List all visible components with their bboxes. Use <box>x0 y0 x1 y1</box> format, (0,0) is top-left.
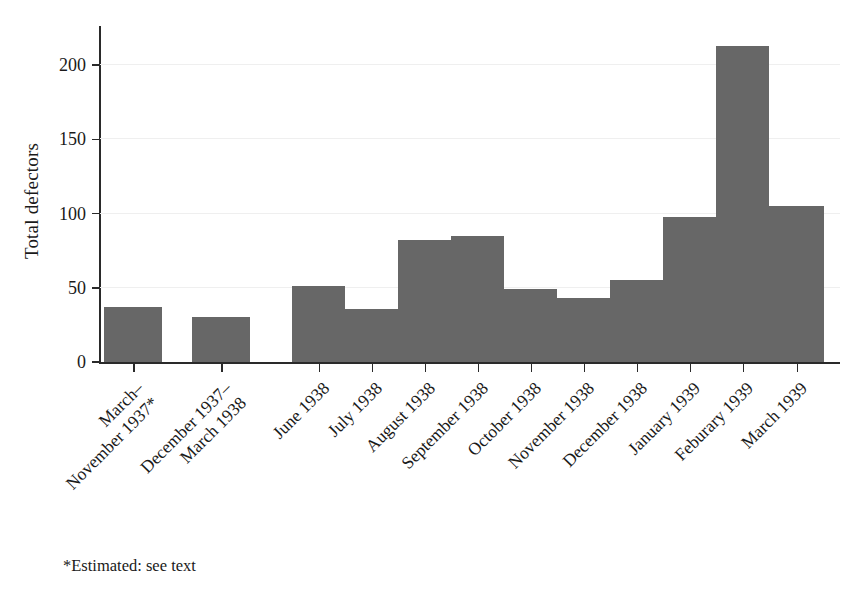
y-tick-label: 150 <box>40 130 86 148</box>
bar <box>557 298 610 362</box>
x-tick-mark <box>319 363 321 372</box>
bar <box>292 286 345 362</box>
x-axis-spine <box>99 362 840 364</box>
x-tick-mark <box>637 363 639 372</box>
x-tick-mark <box>221 363 223 372</box>
bar <box>610 280 663 362</box>
bar <box>716 46 769 362</box>
y-tick-mark <box>92 139 100 141</box>
y-tick-label: 100 <box>40 205 86 223</box>
footnote-text: *Estimated: see text <box>63 556 196 576</box>
x-tick-mark <box>797 363 799 372</box>
x-tick-mark <box>531 363 533 372</box>
bar <box>451 236 504 362</box>
x-tick-mark <box>743 363 745 372</box>
bar <box>192 317 250 362</box>
x-tick-mark <box>133 363 135 372</box>
x-tick-mark <box>584 363 586 372</box>
y-tick-label: 50 <box>40 279 86 297</box>
y-tick-mark <box>92 64 100 66</box>
y-tick-mark <box>92 213 100 215</box>
plot-area <box>100 28 840 362</box>
bar <box>663 217 716 362</box>
bar <box>398 240 451 362</box>
x-tick-mark <box>478 363 480 372</box>
bar <box>504 289 557 362</box>
x-tick-mark <box>425 363 427 372</box>
bar <box>345 309 398 362</box>
bar <box>104 307 162 362</box>
y-tick-label: 200 <box>40 56 86 74</box>
plot-inner <box>100 28 840 362</box>
x-tick-mark <box>690 363 692 372</box>
x-tick-mark <box>372 363 374 372</box>
y-tick-mark <box>92 361 100 363</box>
bar <box>769 206 824 362</box>
y-tick-label: 0 <box>40 353 86 371</box>
bar-chart-figure: Total defectors 050100150200 March–Novem… <box>0 0 854 589</box>
y-tick-mark <box>92 287 100 289</box>
